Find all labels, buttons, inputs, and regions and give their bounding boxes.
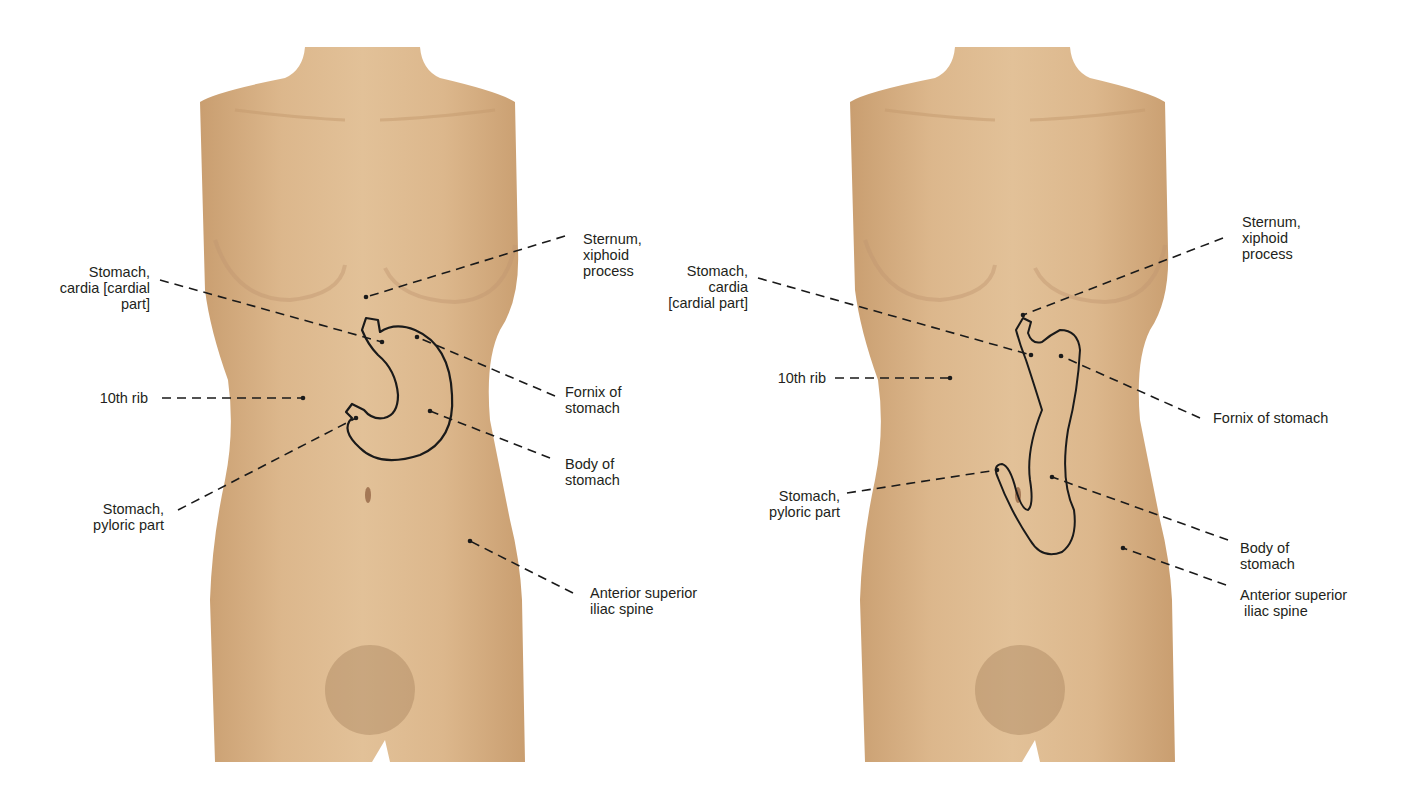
label-stomach-cardia: Stomach, cardia [cardial part]	[650, 263, 748, 311]
label-fornix-of-stomach: Fornix of stomach	[1213, 410, 1328, 426]
label-stomach-pyloric-part: Stomach, pyloric part	[50, 501, 164, 533]
label-stomach-cardia: Stomach, cardia [cardial part]	[40, 264, 150, 312]
label-anterior-superior-iliac-spine: Anterior superior iliac spine	[1240, 587, 1347, 619]
label-body-of-stomach: Body of stomach	[1240, 540, 1295, 572]
navel	[365, 487, 371, 503]
label-body-of-stomach: Body of stomach	[565, 456, 620, 488]
figure-left-typical-stomach: Stomach, cardia [cardial part] 10th rib …	[0, 0, 703, 799]
figure-right-elongated-stomach: Stomach, cardia [cardial part] 10th rib …	[650, 0, 1353, 799]
label-10th-rib: 10th rib	[730, 370, 826, 386]
label-fornix-of-stomach: Fornix of stomach	[565, 384, 621, 416]
label-sternum-xiphoid-process: Sternum, xiphoid process	[583, 231, 642, 279]
label-sternum-xiphoid-process: Sternum, xiphoid process	[1242, 214, 1301, 262]
torso-illustration-right	[650, 0, 1407, 799]
label-10th-rib: 10th rib	[60, 390, 148, 406]
label-stomach-pyloric-part: Stomach, pyloric part	[720, 488, 840, 520]
